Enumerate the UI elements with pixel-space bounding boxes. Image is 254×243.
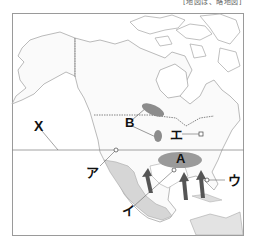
label-a: A: [176, 152, 185, 165]
label-e: エ: [170, 128, 183, 141]
point-a-katakana: [114, 148, 118, 152]
label-x: X: [34, 120, 43, 133]
point-i: [172, 168, 176, 172]
region-b-lower: [154, 130, 162, 142]
point-e: [199, 132, 203, 136]
label-i: イ: [122, 204, 135, 217]
label-u: ウ: [228, 174, 241, 187]
label-b: B: [125, 116, 134, 129]
label-a-katakana: ア: [86, 166, 99, 179]
